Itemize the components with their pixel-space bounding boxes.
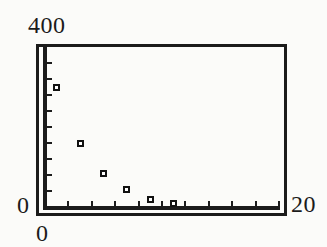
data-point: [123, 186, 130, 193]
x-axis-tick: [91, 201, 93, 206]
x-axis-tick: [184, 201, 186, 206]
y-axis-tick: [47, 110, 52, 112]
y-axis-max-label: 400: [28, 13, 66, 37]
y-axis-tick: [47, 174, 52, 176]
y-axis-min-label: 0: [17, 193, 30, 217]
data-point: [147, 196, 154, 203]
x-axis-tick: [67, 201, 69, 206]
x-axis-tick: [161, 201, 163, 206]
x-axis-tick: [231, 201, 233, 206]
x-axis-tick: [114, 201, 116, 206]
y-axis-tick: [47, 158, 52, 160]
y-axis-tick: [47, 94, 52, 96]
y-axis-tick: [47, 126, 52, 128]
scatter-plot-figure: 400 0 0 20: [0, 0, 327, 247]
y-axis-tick: [47, 62, 52, 64]
x-axis-tick: [208, 201, 210, 206]
y-axis: [43, 47, 47, 210]
data-point: [100, 170, 107, 177]
x-axis-tick: [138, 201, 140, 206]
x-axis-tick: [278, 201, 280, 206]
x-axis-tick: [255, 201, 257, 206]
plot-window-frame: [36, 44, 287, 216]
x-axis: [43, 206, 280, 210]
x-axis-max-label: 20: [291, 192, 316, 216]
y-axis-tick: [47, 190, 52, 192]
data-point: [53, 84, 60, 91]
y-axis-tick: [47, 142, 52, 144]
data-point: [170, 200, 177, 207]
y-axis-tick: [47, 78, 52, 80]
x-axis-min-label: 0: [36, 221, 49, 245]
data-point: [77, 140, 84, 147]
